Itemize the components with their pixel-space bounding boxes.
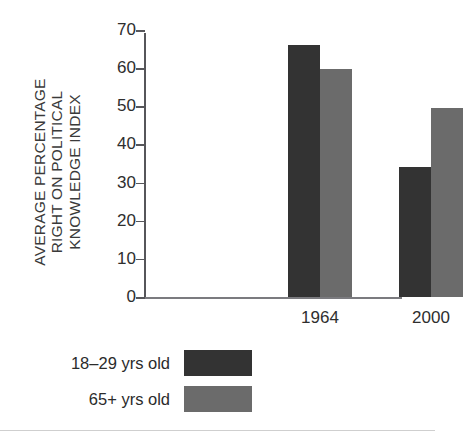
y-axis-title-line-2: RIGHT ON POLITICAL (48, 91, 65, 254)
legend-swatch-18-29 (184, 350, 252, 376)
x-axis-label: 2000 (391, 308, 467, 328)
y-axis-tick-label: 0 (127, 287, 136, 306)
y-axis-tick-label: 10 (117, 249, 136, 268)
x-axis-line (136, 297, 402, 299)
y-axis-tick-mark (136, 68, 145, 70)
y-axis-title-line-1: AVERAGE PERCENTAGE (31, 78, 48, 265)
x-axis-label: 1964 (280, 308, 360, 328)
legend-swatch-65-plus (184, 386, 252, 412)
bar (320, 69, 352, 297)
bar (288, 45, 320, 297)
y-axis-tick-label: 20 (117, 211, 136, 230)
y-axis-tick-mark (136, 144, 145, 146)
bottom-divider (0, 430, 435, 431)
legend-item: 65+ yrs old (12, 381, 252, 417)
y-axis-title: AVERAGE PERCENTAGE RIGHT ON POLITICAL KN… (21, 22, 93, 322)
y-axis-tick-mark (136, 221, 145, 223)
legend-item-label: 18–29 yrs old (71, 354, 170, 373)
y-axis-title-line-3: KNOWLEDGE INDEX (66, 94, 83, 249)
y-axis-tick-mark (136, 30, 145, 32)
y-axis-tick-label: 60 (117, 58, 136, 77)
y-axis-tick-mark (136, 106, 145, 108)
plot-area: 706050403020100 19642000 (144, 30, 402, 300)
bar (431, 108, 463, 297)
y-axis-tick-label: 40 (117, 134, 136, 153)
y-axis-tick-label: 30 (117, 173, 136, 192)
legend: 18–29 yrs old 65+ yrs old (12, 345, 252, 417)
y-axis-tick-label: 70 (117, 20, 136, 39)
y-axis-tick-mark (136, 183, 145, 185)
legend-item-label: 65+ yrs old (89, 390, 170, 409)
bar (399, 167, 431, 297)
y-axis-tick-label: 50 (117, 96, 136, 115)
legend-item: 18–29 yrs old (12, 345, 252, 381)
y-axis-tick-mark (136, 297, 145, 299)
y-axis-tick-mark (136, 259, 145, 261)
